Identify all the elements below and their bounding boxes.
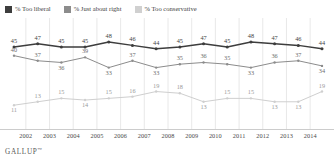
data-label: 36 xyxy=(271,52,277,59)
data-label: 13 xyxy=(200,103,206,110)
trademark-mark: ™ xyxy=(38,147,43,152)
data-label: 15 xyxy=(224,88,230,95)
data-point[interactable] xyxy=(178,46,181,49)
data-label: 48 xyxy=(248,32,254,39)
data-label: 45 xyxy=(11,37,17,44)
legend-item-too-liberal[interactable]: % Too liberal xyxy=(5,5,51,13)
data-label: 37 xyxy=(35,51,41,58)
data-point[interactable] xyxy=(273,42,276,45)
data-point[interactable] xyxy=(226,97,228,99)
data-label: 14 xyxy=(82,101,89,108)
data-point[interactable] xyxy=(60,46,63,49)
data-label: 36 xyxy=(200,52,206,59)
data-point[interactable] xyxy=(13,54,15,56)
data-label: 39 xyxy=(82,47,88,54)
legend-swatch-too-liberal xyxy=(5,6,12,13)
data-label: 45 xyxy=(177,37,183,44)
data-label: 47 xyxy=(200,34,206,41)
data-point[interactable] xyxy=(84,56,86,58)
data-label: 33 xyxy=(153,69,159,76)
data-label: 13 xyxy=(295,103,301,110)
x-tick-label-2010: 2010 xyxy=(209,132,222,139)
legend-swatch-just-about-right xyxy=(64,6,71,13)
data-label: 18 xyxy=(177,83,183,90)
data-point[interactable] xyxy=(155,47,158,50)
x-tick-label-2014: 2014 xyxy=(304,132,317,139)
data-label: 15 xyxy=(248,88,254,95)
chart-plot-area: 4547454548464445474548474644403736393337… xyxy=(0,18,334,130)
data-label: 34 xyxy=(319,67,326,74)
legend-swatch-too-conservative xyxy=(135,6,142,13)
x-tick-label-2002: 2002 xyxy=(19,132,32,139)
gallup-brand: GALLUP™ xyxy=(5,147,43,156)
x-tick-label-2011: 2011 xyxy=(233,132,246,139)
data-point[interactable] xyxy=(107,40,110,43)
data-label: 37 xyxy=(295,51,301,58)
line-chart-svg: 4547454548464445474548474644403736393337… xyxy=(0,18,334,130)
data-point[interactable] xyxy=(131,44,134,47)
x-tick-label-2005: 2005 xyxy=(90,132,103,139)
data-label: 47 xyxy=(271,34,277,41)
data-point[interactable] xyxy=(226,46,229,49)
legend-label-just-about-right: % Just about right xyxy=(74,5,122,13)
x-tick-label-2004: 2004 xyxy=(67,132,80,139)
data-label: 36 xyxy=(58,64,64,71)
data-label: 19 xyxy=(319,82,325,89)
data-point[interactable] xyxy=(297,44,300,47)
data-point[interactable] xyxy=(226,63,228,65)
data-label: 48 xyxy=(106,32,112,39)
data-point[interactable] xyxy=(131,95,133,97)
data-label: 16 xyxy=(129,87,135,94)
data-point[interactable] xyxy=(321,90,323,92)
x-tick-label-2003: 2003 xyxy=(43,132,56,139)
data-point[interactable] xyxy=(179,63,181,65)
x-tick-label-2008: 2008 xyxy=(162,132,175,139)
legend-label-too-conservative: % Too conservative xyxy=(145,5,197,13)
data-point[interactable] xyxy=(297,60,299,62)
data-point[interactable] xyxy=(36,60,38,62)
data-point[interactable] xyxy=(179,92,181,94)
data-point[interactable] xyxy=(155,90,157,92)
data-point[interactable] xyxy=(36,42,39,45)
data-label: 44 xyxy=(319,39,326,46)
data-point[interactable] xyxy=(321,47,324,50)
data-label: 44 xyxy=(153,39,160,46)
data-label: 19 xyxy=(153,82,159,89)
data-label: 35 xyxy=(177,54,183,61)
legend-item-just-about-right[interactable]: % Just about right xyxy=(64,5,122,13)
data-label: 45 xyxy=(224,37,230,44)
data-label: 45 xyxy=(82,37,88,44)
data-label: 13 xyxy=(35,92,41,99)
data-label: 37 xyxy=(129,51,135,58)
data-label: 47 xyxy=(35,34,41,41)
data-point[interactable] xyxy=(250,97,252,99)
legend-item-too-conservative[interactable]: % Too conservative xyxy=(135,5,197,13)
data-point[interactable] xyxy=(202,42,205,45)
x-tick-label-2006: 2006 xyxy=(114,132,127,139)
data-label: 15 xyxy=(106,88,112,95)
data-label: 46 xyxy=(129,35,135,42)
x-axis-labels: 2002200320042005200620072008200920102011… xyxy=(0,130,334,144)
data-point[interactable] xyxy=(202,61,204,63)
data-point[interactable] xyxy=(273,61,275,63)
gallup-brand-text: GALLUP xyxy=(5,148,38,156)
data-label: 15 xyxy=(58,88,64,95)
data-label: 35 xyxy=(224,54,230,61)
data-label: 11 xyxy=(11,106,17,113)
data-point[interactable] xyxy=(131,60,133,62)
legend-label-too-liberal: % Too liberal xyxy=(15,5,51,13)
data-label: 45 xyxy=(58,37,64,44)
data-point[interactable] xyxy=(108,97,110,99)
data-point[interactable] xyxy=(60,97,62,99)
data-label: 46 xyxy=(295,35,301,42)
x-tick-label-2012: 2012 xyxy=(256,132,269,139)
data-label: 13 xyxy=(271,103,277,110)
gridlines xyxy=(26,18,310,129)
x-tick-label-2013: 2013 xyxy=(280,132,293,139)
x-tick-label-2007: 2007 xyxy=(138,132,151,139)
data-label: 40 xyxy=(11,46,17,53)
data-point[interactable] xyxy=(249,40,252,43)
x-tick-label-2009: 2009 xyxy=(185,132,198,139)
data-point[interactable] xyxy=(36,101,38,103)
chart-legend: % Too liberal% Just about right% Too con… xyxy=(0,0,334,18)
